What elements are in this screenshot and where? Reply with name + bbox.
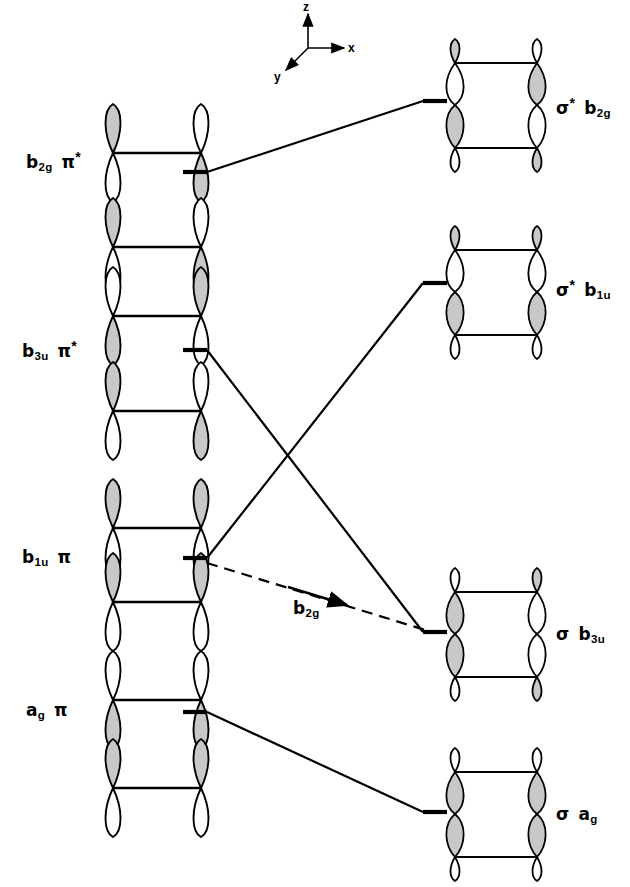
orbital-group-sigma-star-b1u <box>446 226 545 359</box>
label-b2g-pi-star: b2gπ* <box>26 150 81 174</box>
ethylene-top <box>106 104 209 202</box>
label-annotation-b2g: b2g <box>293 600 320 620</box>
diagram-canvas <box>0 0 630 887</box>
orbital-group-sigma-star-b2g <box>446 39 545 172</box>
orbital-group-b2g-pi-star <box>106 104 209 296</box>
correlation-line-ag[interactable] <box>207 712 423 812</box>
mo-correlation-diagram: b2gπ* b3uπ* b1uπ agπ σ*b2g σ*b1u σb3u σa… <box>0 0 630 887</box>
axis-label-y: y <box>274 70 281 84</box>
axis-label-x: x <box>348 41 355 55</box>
correlation-line-b3u[interactable] <box>207 350 423 632</box>
orbital-group-ag-pi <box>106 651 209 837</box>
label-sigma-ag: σag <box>556 806 598 826</box>
label-b1u-pi: b1uπ <box>22 549 71 569</box>
orbital-group-b3u-pi-star <box>106 267 209 460</box>
label-sigma-star-b2g: σ*b2g <box>556 96 611 120</box>
orbital-group-b1u-pi <box>106 479 209 651</box>
annotation-b2g-dashed <box>207 563 435 633</box>
ethylene-top <box>106 479 209 577</box>
orbital-group-sigma-ag <box>446 748 545 881</box>
label-b3u-pi-star: b3uπ* <box>22 339 77 363</box>
label-ag-pi: agπ <box>26 702 68 722</box>
ethylene-bottom <box>106 553 209 651</box>
ethylene-bottom <box>106 362 209 460</box>
correlation-line-b2g[interactable] <box>207 101 423 172</box>
orbital-group-sigma-b3u <box>446 568 545 701</box>
ethylene-bottom <box>106 739 209 837</box>
axis-label-z: z <box>303 0 309 14</box>
correlation-line-b1u[interactable] <box>207 283 423 558</box>
ethylene-top <box>106 651 209 749</box>
coordinate-axes-icon <box>286 14 344 70</box>
label-sigma-b3u: σb3u <box>556 626 605 646</box>
label-sigma-star-b1u: σ*b1u <box>556 278 611 302</box>
